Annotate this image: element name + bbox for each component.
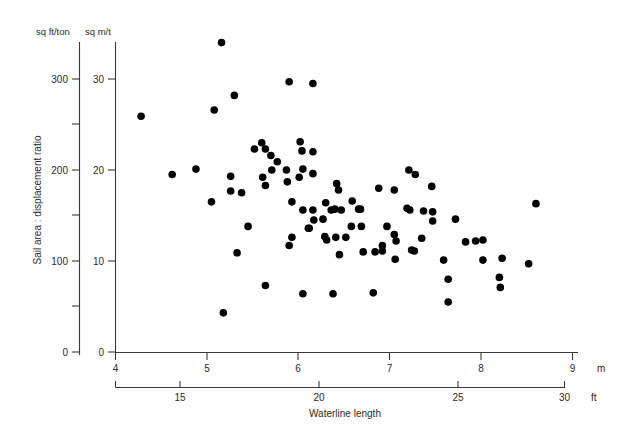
data-point <box>379 247 387 255</box>
data-point <box>262 182 270 190</box>
data-point <box>331 205 339 213</box>
x-label-m-7: 7 <box>387 363 393 374</box>
data-point <box>283 166 291 174</box>
x-axis-title: Waterline length <box>309 408 381 419</box>
data-point <box>137 113 145 121</box>
scatter-plot-figure: sq ft/ton sq m/t 0 100 200 300 0 10 <box>0 0 629 439</box>
data-point <box>369 289 377 297</box>
data-point <box>428 183 436 191</box>
data-point <box>358 223 366 231</box>
plot-canvas: 0 100 200 300 0 10 20 30 Sail area : dis… <box>0 0 629 439</box>
data-point <box>168 171 176 179</box>
x-label-ft-30: 30 <box>559 392 571 403</box>
data-point <box>305 224 313 232</box>
data-point <box>262 282 270 290</box>
data-point <box>532 200 540 208</box>
y-label-sqmt-30: 30 <box>93 74 105 85</box>
y-axis-sqmt: 0 10 20 30 <box>93 42 116 358</box>
x-label-ft-20: 20 <box>313 392 325 403</box>
y-label-sqmt-20: 20 <box>93 165 105 176</box>
data-point <box>288 198 296 206</box>
data-point <box>244 223 252 231</box>
x-label-m-4: 4 <box>113 363 119 374</box>
data-point <box>309 80 317 88</box>
data-point <box>383 223 391 231</box>
data-point <box>310 216 318 224</box>
data-point <box>411 171 419 179</box>
data-point <box>408 246 416 254</box>
data-point <box>337 206 345 214</box>
x-label-m-6: 6 <box>295 363 301 374</box>
data-point <box>299 206 307 214</box>
data-point <box>284 178 292 186</box>
data-point <box>288 234 296 242</box>
data-point <box>322 199 330 207</box>
data-point <box>371 248 379 256</box>
data-point <box>429 208 437 216</box>
x-axis-metres: 4 5 6 7 8 9 m <box>113 353 606 375</box>
data-point <box>218 39 226 47</box>
data-point <box>319 215 327 223</box>
data-point <box>309 170 317 178</box>
data-point <box>299 290 307 298</box>
data-point <box>390 186 398 194</box>
data-point <box>220 309 228 317</box>
data-point <box>479 236 487 244</box>
x-label-m-9: 9 <box>570 363 576 374</box>
data-point <box>444 298 452 306</box>
data-point <box>375 184 383 192</box>
data-point <box>496 284 504 292</box>
data-point <box>391 255 399 263</box>
data-point <box>420 207 428 215</box>
data-point <box>258 139 266 147</box>
y-label-sqftton-300: 300 <box>51 74 68 85</box>
data-point <box>405 166 413 174</box>
data-point <box>333 180 341 188</box>
data-points-group <box>137 39 539 317</box>
y-label-sqmt-10: 10 <box>93 256 105 267</box>
data-point <box>329 290 337 298</box>
data-point <box>406 206 414 214</box>
data-point <box>299 165 307 173</box>
data-point <box>336 251 344 259</box>
data-point <box>231 92 239 100</box>
data-point <box>309 148 317 156</box>
data-point <box>210 106 218 114</box>
data-point <box>227 173 235 181</box>
data-point <box>355 205 363 213</box>
data-point <box>452 215 460 223</box>
data-point <box>390 231 398 239</box>
y-axis-sqftton: 0 100 200 300 <box>51 42 79 358</box>
data-point <box>444 275 452 283</box>
data-point <box>295 173 303 181</box>
data-point <box>273 158 281 166</box>
data-point <box>262 145 270 153</box>
x-label-ft-15: 15 <box>174 392 186 403</box>
y-label-sqftton-200: 200 <box>51 165 68 176</box>
data-point <box>323 236 331 244</box>
data-point <box>525 260 533 268</box>
data-point <box>335 186 343 194</box>
data-point <box>309 206 317 214</box>
y-label-sqmt-0: 0 <box>98 347 104 358</box>
data-point <box>192 165 200 173</box>
data-point <box>296 138 304 146</box>
data-point <box>298 147 306 155</box>
data-point <box>342 234 350 242</box>
data-point <box>498 254 506 262</box>
data-point <box>259 173 267 181</box>
x-axis-unit-feet: ft <box>591 392 597 403</box>
data-point <box>233 249 241 257</box>
data-point <box>418 234 426 242</box>
data-point <box>359 248 367 256</box>
x-axis-unit-metres: m <box>597 363 605 374</box>
data-point <box>462 238 470 246</box>
data-point <box>440 256 448 264</box>
data-point <box>285 78 293 86</box>
y-label-sqftton-100: 100 <box>51 256 68 267</box>
y-axis-title: Sail area : displacement ratio <box>32 135 43 264</box>
x-label-m-8: 8 <box>478 363 484 374</box>
data-point <box>227 187 235 195</box>
data-point <box>348 197 356 205</box>
data-point <box>251 145 259 153</box>
